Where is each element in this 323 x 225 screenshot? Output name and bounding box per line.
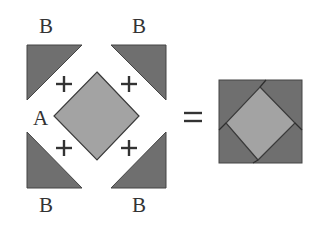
plus-icon-top-right xyxy=(121,76,137,92)
triangle-b-top-right xyxy=(111,45,166,100)
label-a: A xyxy=(33,106,49,130)
square-in-square-diagram: B B B B A xyxy=(0,0,323,225)
equals-icon xyxy=(184,113,202,121)
triangle-b-bottom-left xyxy=(27,132,82,188)
triangle-b-top-left xyxy=(27,45,82,100)
result-block xyxy=(219,80,302,163)
plus-icon-top-left xyxy=(56,76,72,92)
label-b-bottom-right: B xyxy=(132,193,146,217)
label-b-top-left: B xyxy=(39,14,53,38)
label-b-top-right: B xyxy=(132,14,146,38)
plus-icon-bottom-right xyxy=(121,140,137,156)
plus-icon-bottom-left xyxy=(56,140,72,156)
triangle-b-bottom-right xyxy=(111,132,166,188)
label-b-bottom-left: B xyxy=(39,193,53,217)
